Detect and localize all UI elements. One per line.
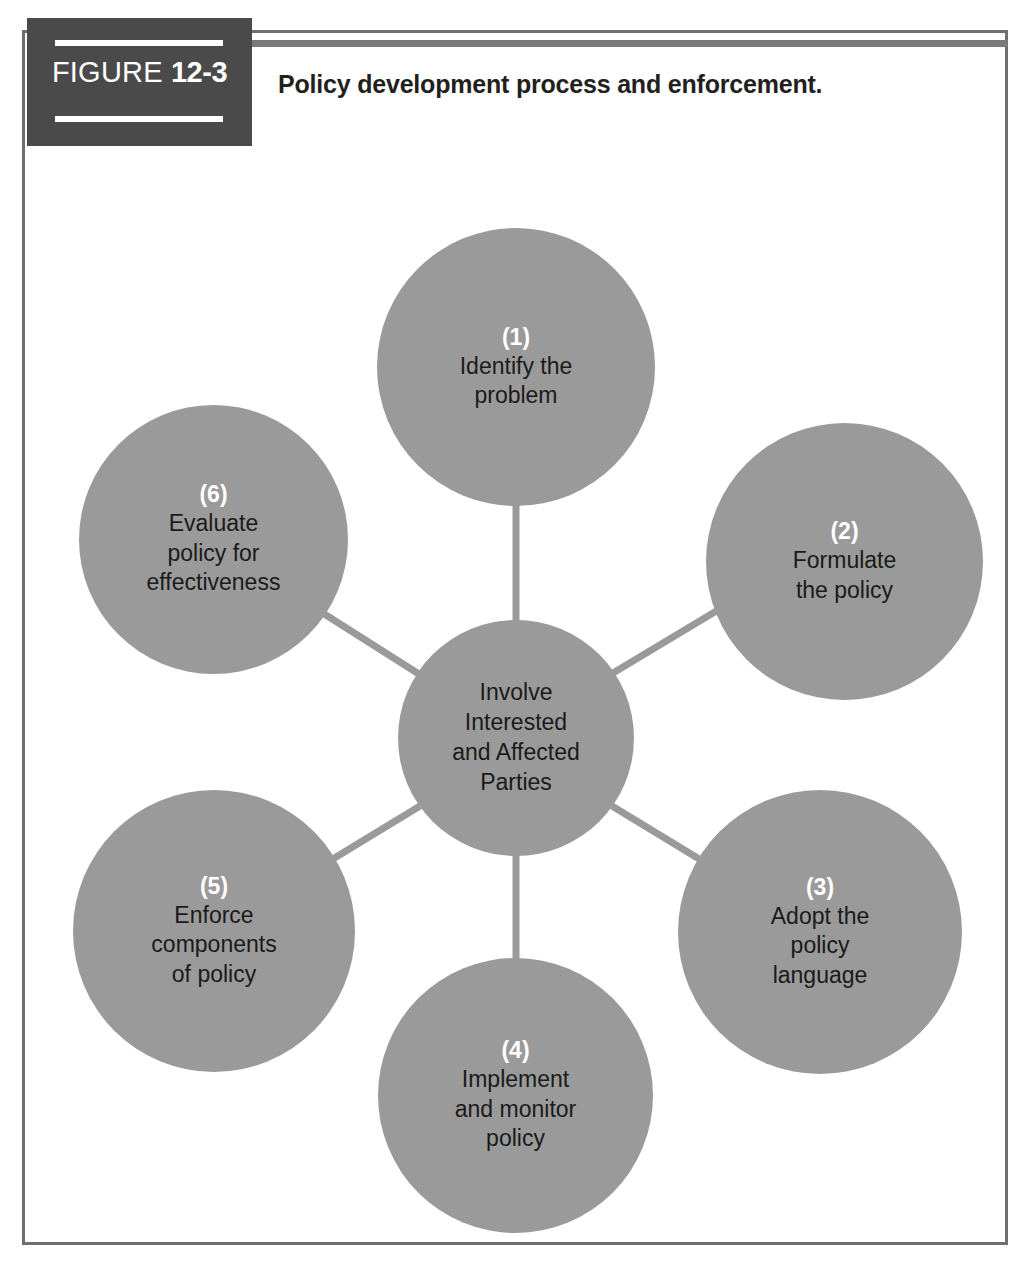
node-step-3-label: (3) (806, 874, 834, 901)
diagram-node-step-5[interactable]: (5) Enforce components of policy (73, 790, 355, 1072)
figure-title: Policy development process and enforceme… (278, 70, 978, 99)
node-step-2-label: (2) (830, 518, 858, 545)
node-step-6-label: (6) (199, 481, 227, 508)
figure-label-box: FIGURE 12-3 (27, 18, 252, 146)
diagram-node-step-2[interactable]: (2) Formulate the policy (706, 423, 983, 700)
node-step-6-text: Evaluate policy for effectiveness (147, 509, 281, 597)
diagram-node-step-3[interactable]: (3) Adopt the policy language (678, 790, 962, 1074)
policy-process-diagram: Involve Interested and Affected Parties … (0, 0, 1034, 1275)
figure-label-number: 12-3 (171, 56, 227, 88)
connector-center-to-step-2 (608, 610, 718, 676)
figure-label-rule-top (55, 40, 223, 46)
node-step-3-text: Adopt the policy language (771, 902, 869, 990)
node-step-4-label: (4) (501, 1037, 529, 1064)
diagram-node-center[interactable]: Involve Interested and Affected Parties (398, 620, 634, 856)
figure-label: FIGURE 12-3 (27, 56, 252, 89)
node-step-5-label: (5) (200, 873, 228, 900)
node-step-1-text: Identify the problem (460, 352, 573, 411)
figure-label-word: FIGURE (52, 56, 163, 88)
node-step-5-text: Enforce components of policy (151, 901, 276, 989)
diagram-node-step-1[interactable]: (1) Identify the problem (377, 228, 655, 506)
node-center-text: Involve Interested and Affected Parties (452, 678, 579, 798)
figure-page: FIGURE 12-3 Policy development process a… (0, 0, 1034, 1275)
node-step-4-text: Implement and monitor policy (455, 1065, 576, 1153)
connector-center-to-step-6 (318, 610, 422, 676)
node-step-1-label: (1) (502, 324, 530, 351)
node-step-2-text: Formulate the policy (793, 546, 897, 605)
figure-label-rule-bottom (55, 116, 223, 122)
diagram-node-step-4[interactable]: (4) Implement and monitor policy (378, 958, 653, 1233)
diagram-node-step-6[interactable]: (6) Evaluate policy for effectiveness (79, 405, 348, 674)
